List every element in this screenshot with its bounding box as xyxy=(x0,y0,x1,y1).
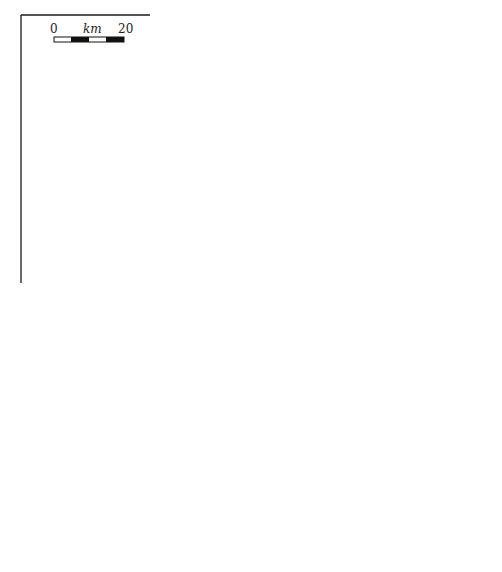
scale-start: 0 xyxy=(50,22,58,36)
scale-end: 20 xyxy=(118,22,133,36)
tectonic-diagram: 0 km 20 xyxy=(0,0,502,572)
top-panel: 0 km 20 xyxy=(21,15,150,283)
scale-unit: km xyxy=(83,22,102,36)
scale-bar: 0 km 20 xyxy=(50,22,133,42)
